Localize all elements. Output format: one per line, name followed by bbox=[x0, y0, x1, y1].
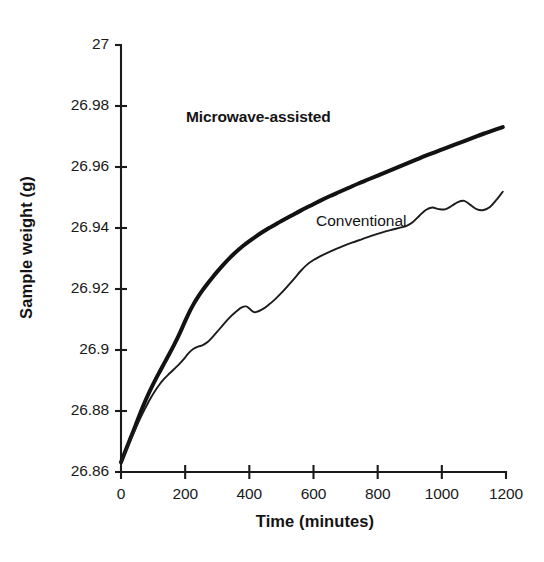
x-axis-title: Time (minutes) bbox=[120, 512, 510, 531]
chart-figure: 26.8626.8826.926.9226.9426.9626.9827 020… bbox=[0, 0, 544, 562]
y-axis-tick-label: 26.88 bbox=[3, 401, 109, 419]
y-axis-tick-label: 27 bbox=[3, 35, 109, 53]
y-axis-tick-label: 26.86 bbox=[3, 462, 109, 480]
series-label-microwave-assisted: Microwave-assisted bbox=[186, 108, 331, 126]
series-line-microwave-assisted bbox=[121, 127, 503, 462]
x-axis-tick-label: 1200 bbox=[466, 485, 544, 503]
series-line-conventional bbox=[121, 192, 503, 463]
y-axis-title: Sample weight (g) bbox=[17, 148, 36, 348]
series-label-conventional: Conventional bbox=[316, 212, 406, 230]
series-group bbox=[121, 127, 503, 462]
y-axis-tick-label: 26.98 bbox=[3, 96, 109, 114]
